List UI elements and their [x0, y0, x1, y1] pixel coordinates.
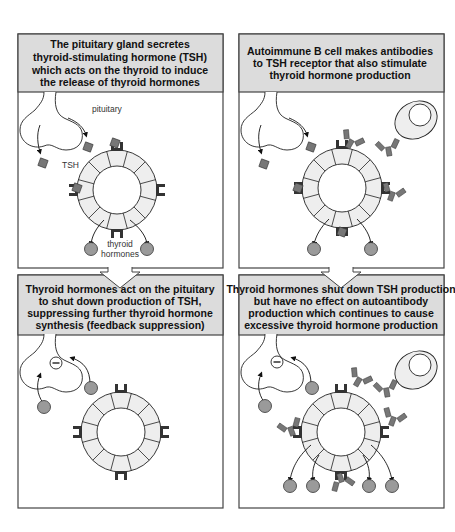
- header-line: Autoimmune B cell makes antibodies: [247, 45, 433, 57]
- thyroid-hormone: [284, 480, 297, 493]
- follicle-lumen: [93, 166, 141, 214]
- header-line: thyroid hormone production: [269, 69, 410, 81]
- thyroid-hormone: [307, 480, 320, 493]
- thyroid-hormone: [141, 243, 154, 256]
- b-cell-nucleus: [409, 104, 431, 126]
- b-cell-nucleus: [409, 354, 431, 376]
- pituitary-label: pituitary: [92, 104, 123, 114]
- thyroid-hormone: [259, 400, 272, 413]
- header-line: to shut down production of TSH,: [39, 295, 202, 307]
- header-line: production which continues to cause: [248, 307, 434, 319]
- header-line: The pituitary gland secretes: [50, 38, 190, 50]
- tsh-label: TSH: [62, 160, 79, 170]
- header-line: the release of thyroid hormones: [40, 76, 200, 88]
- minus-circle-icon: [271, 356, 283, 368]
- thyroid-hormone: [306, 382, 319, 395]
- follicle-lumen: [317, 408, 365, 456]
- thyroid-hormone: [85, 382, 98, 395]
- antibody-arm: [352, 368, 358, 377]
- thyroid-hormone: [365, 243, 378, 256]
- thyroid-hormone: [363, 480, 376, 493]
- thyroid-hormone: [85, 243, 98, 256]
- header-line: suppressing further thyroid hormone: [27, 307, 213, 319]
- header-line: but have no effect on autoantibody: [254, 295, 429, 307]
- follicle-lumen: [318, 164, 366, 212]
- hormones-label: hormones: [101, 249, 139, 259]
- antibody-arm: [344, 130, 350, 139]
- hormones-label: thyroid: [107, 239, 133, 249]
- graves-disease-diagram: The pituitary gland secretes thyroid-sti…: [0, 0, 455, 532]
- header-line: which acts on the thyroid to induce: [31, 64, 208, 76]
- header-line: excessive thyroid hormone production: [244, 319, 438, 331]
- header-line: to TSH receptor that also stimulate: [253, 57, 427, 69]
- thyroid-hormone: [38, 401, 51, 414]
- header-line: thyroid-stimulating hormone (TSH): [33, 51, 207, 63]
- thyroid-hormone: [386, 480, 399, 493]
- follicle-lumen: [97, 408, 145, 456]
- minus-circle-icon: [50, 357, 62, 369]
- header-line: synthesis (feedback suppression): [35, 319, 204, 331]
- thyroid-hormone: [308, 243, 321, 256]
